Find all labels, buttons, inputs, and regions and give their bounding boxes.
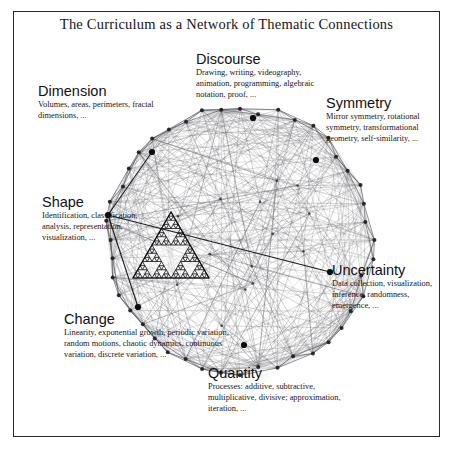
theme-symmetry[interactable]: Symmetry Mirror symmetry, rotational sym…	[326, 96, 444, 145]
theme-body: Linearity, exponential growth, periodic …	[64, 328, 249, 361]
theme-uncertainty[interactable]: Uncertainty Data collection, visualizati…	[332, 263, 444, 312]
theme-body: Volumes, areas, perimeters, fractal dime…	[38, 100, 158, 122]
theme-node-discourse	[250, 115, 256, 121]
theme-body: Data collection, visualization, inferenc…	[332, 279, 444, 312]
theme-node-dimension	[149, 149, 155, 155]
theme-heading: Discourse	[196, 52, 316, 67]
theme-discourse[interactable]: Discourse Drawing, writing, videography,…	[196, 52, 316, 101]
theme-heading: Symmetry	[326, 96, 444, 111]
theme-heading: Change	[64, 312, 249, 327]
theme-dimension[interactable]: Dimension Volumes, areas, perimeters, fr…	[38, 84, 158, 122]
theme-body: Identification, classification, analysis…	[42, 211, 147, 244]
theme-heading: Quantity	[208, 366, 358, 381]
theme-shape[interactable]: Shape Identification, classification, an…	[42, 195, 147, 244]
theme-body: Processes: additive, subtractive, multip…	[208, 382, 358, 415]
theme-body: Drawing, writing, videography, animation…	[196, 68, 316, 101]
theme-change[interactable]: Change Linearity, exponential growth, pe…	[64, 312, 249, 361]
theme-quantity[interactable]: Quantity Processes: additive, subtractiv…	[208, 366, 358, 415]
theme-node-change	[135, 304, 141, 310]
theme-heading: Shape	[42, 195, 147, 210]
theme-body: Mirror symmetry, rotational symmetry, tr…	[326, 112, 444, 145]
theme-heading: Uncertainty	[332, 263, 444, 278]
theme-node-symmetry	[313, 157, 319, 163]
theme-heading: Dimension	[38, 84, 158, 99]
figure-root: The Curriculum as a Network of Thematic …	[0, 0, 453, 454]
